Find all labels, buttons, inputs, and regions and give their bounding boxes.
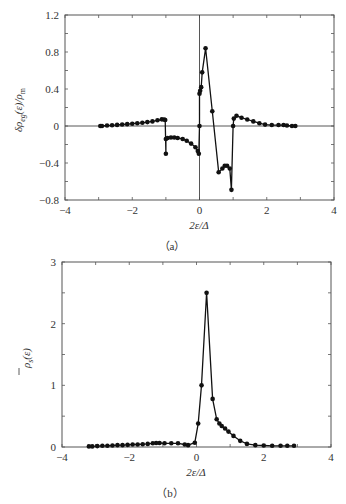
data-point	[163, 118, 168, 123]
chart-a-x-axis-label: 2ε/Δ	[189, 219, 208, 231]
x-tick-label: 4	[331, 204, 337, 216]
data-point	[157, 441, 162, 446]
chart-b-ticks: −4−20240123	[51, 256, 335, 463]
data-point	[216, 170, 221, 175]
data-point	[210, 109, 215, 114]
y-tick-label: 0.8	[45, 46, 59, 58]
data-point	[253, 443, 258, 448]
data-point	[140, 442, 145, 447]
data-point	[245, 442, 250, 447]
chart-a-ticks: −4−2024−0.8−0.400.40.81.2	[39, 9, 337, 216]
x-tick-label: 2	[264, 204, 270, 216]
data-point	[231, 124, 236, 129]
data-point	[125, 122, 130, 127]
data-point	[145, 442, 150, 447]
series-line	[100, 48, 295, 190]
data-point	[105, 123, 110, 128]
data-point	[145, 120, 150, 125]
data-point	[120, 122, 125, 127]
figure: −4−2024−0.8−0.400.40.81.2 2ε/Δ （a） δρeg(…	[0, 0, 346, 504]
data-point	[175, 136, 180, 141]
chart-b-y-axis-label: ρs(ε)	[19, 348, 35, 375]
data-point	[169, 441, 174, 446]
data-point	[270, 443, 275, 448]
data-point	[110, 123, 115, 128]
data-point	[292, 443, 297, 448]
x-tick-label: 4	[328, 451, 334, 463]
data-point	[135, 442, 140, 447]
svg-text:ρs(ε): ρs(ε)	[20, 348, 35, 369]
data-point	[125, 443, 130, 448]
data-point	[226, 429, 231, 434]
series-line	[89, 293, 294, 447]
chart-b-x-axis-label: 2ε/Δ	[186, 466, 205, 478]
data-point	[155, 118, 160, 123]
data-point	[135, 121, 140, 126]
data-point	[105, 443, 110, 448]
data-point	[90, 444, 95, 449]
data-point	[184, 139, 189, 144]
x-tick-label: −4	[56, 451, 68, 463]
chart-b-plot-frame	[62, 262, 331, 447]
data-point	[95, 444, 100, 449]
data-point	[251, 119, 256, 124]
data-point	[130, 121, 135, 126]
data-point	[238, 439, 243, 444]
data-point	[210, 397, 215, 402]
x-tick-label: −2	[126, 204, 138, 216]
data-point	[269, 123, 274, 128]
y-label-a-main: δρ	[12, 122, 24, 132]
data-point	[276, 123, 281, 128]
data-point	[261, 443, 266, 448]
data-point	[199, 85, 204, 90]
data-point	[203, 46, 208, 51]
data-point	[229, 188, 234, 193]
data-point	[197, 124, 202, 129]
data-point	[227, 166, 232, 171]
data-point	[110, 443, 115, 448]
data-point	[200, 70, 205, 75]
chart-a-series	[98, 46, 298, 192]
y-tick-label: 0.4	[45, 83, 59, 95]
data-point	[115, 443, 120, 448]
chart-b-series	[87, 291, 297, 449]
data-point	[130, 442, 135, 447]
chart-b-caption: （b）	[156, 487, 184, 499]
x-tick-label: 0	[194, 451, 200, 463]
data-point	[196, 421, 201, 426]
data-point	[150, 119, 155, 124]
chart-b: −4−20240123 2ε/Δ （b） ρs(ε)	[19, 256, 334, 499]
data-point	[100, 443, 105, 448]
data-point	[100, 124, 105, 129]
data-point	[239, 115, 244, 120]
data-point	[176, 441, 181, 446]
data-point	[180, 137, 185, 142]
x-tick-label: 0	[197, 204, 203, 216]
data-point	[257, 121, 262, 126]
chart-a: −4−2024−0.8−0.400.40.81.2 2ε/Δ （a） δρeg(…	[12, 9, 337, 252]
data-point	[186, 443, 191, 448]
y-label-a-sub2: m	[18, 87, 27, 94]
chart-a-y-axis-label: δρeg(ε)/ρm	[12, 87, 27, 132]
y-tick-label: 0	[54, 120, 60, 132]
x-tick-label: −4	[59, 204, 71, 216]
chart-a-caption: （a）	[159, 240, 186, 252]
y-label-a-tail: (ε)/ρ	[12, 94, 25, 114]
y-tick-label: 1.2	[45, 9, 59, 21]
y-label-b-tail: (ε)	[20, 348, 33, 360]
data-point	[115, 123, 120, 128]
data-point	[197, 151, 202, 156]
y-tick-label: 3	[51, 256, 57, 268]
data-point	[234, 114, 239, 119]
y-tick-label: −0.4	[39, 157, 59, 169]
x-tick-label: −2	[123, 451, 135, 463]
data-point	[189, 141, 194, 146]
data-point	[285, 123, 290, 128]
data-point	[263, 122, 268, 127]
data-point	[245, 117, 250, 122]
data-point	[204, 291, 209, 296]
data-point	[193, 440, 198, 445]
y-label-a-sub: eg	[18, 114, 27, 122]
data-point	[285, 443, 290, 448]
data-point	[231, 434, 236, 439]
